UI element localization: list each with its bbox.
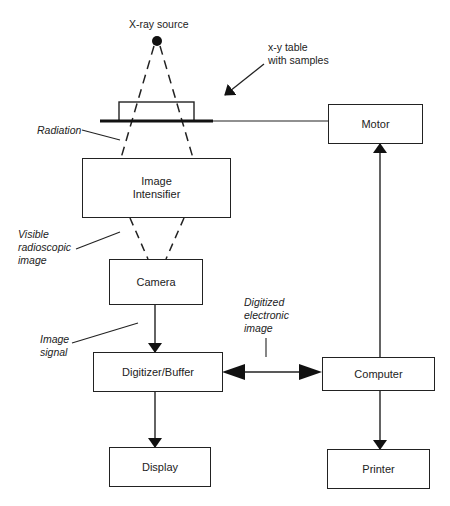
radiation-label: Radiation xyxy=(37,124,81,137)
digitized-image-label-2: electronic xyxy=(244,309,289,322)
visible-image-right xyxy=(166,218,184,259)
digitized-image-label-3: image xyxy=(244,322,273,335)
sample-holder xyxy=(119,102,194,121)
image-signal-label-1: Image xyxy=(40,333,69,346)
display-box: Display xyxy=(109,447,211,487)
visible-image-label-1: Visible xyxy=(18,228,49,241)
digitized-image-label-1: Digitized xyxy=(244,296,284,309)
computer-box: Computer xyxy=(322,357,435,391)
digitizer-buffer-box: Digitizer/Buffer xyxy=(93,352,223,392)
visible-image-label-3: image xyxy=(18,254,47,267)
image-signal-label-2: signal xyxy=(40,346,67,359)
arrowhead-right-icon xyxy=(299,364,322,380)
printer-label: Printer xyxy=(362,463,394,476)
camera-box: Camera xyxy=(109,259,203,305)
motor-label: Motor xyxy=(361,118,389,131)
visible-image-leader xyxy=(76,232,120,249)
radiation-leader xyxy=(82,130,120,140)
intensifier-label-1: Image xyxy=(141,175,172,188)
display-label: Display xyxy=(142,461,178,474)
xy-table-pointer xyxy=(225,64,264,95)
xray-source-icon xyxy=(152,36,162,46)
xray-source-label: X-ray source xyxy=(129,18,189,31)
camera-label: Camera xyxy=(136,276,175,289)
visible-image-label-2: radioscopic xyxy=(18,241,71,254)
digitizer-label: Digitizer/Buffer xyxy=(122,366,194,379)
computer-label: Computer xyxy=(354,368,402,381)
visible-image-left xyxy=(130,218,148,259)
arrowhead-left-icon xyxy=(222,364,245,380)
printer-box: Printer xyxy=(327,449,430,489)
image-signal-leader xyxy=(72,323,138,343)
image-intensifier-box: Image Intensifier xyxy=(82,158,231,218)
xy-table-label-1: x-y table xyxy=(268,41,308,54)
motor-box: Motor xyxy=(328,104,423,144)
xy-table-label-2: with samples xyxy=(268,54,329,67)
intensifier-label-2: Intensifier xyxy=(133,188,181,201)
